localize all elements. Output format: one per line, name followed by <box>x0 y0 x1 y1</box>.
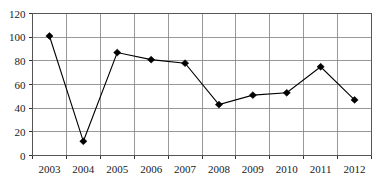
y-axis-tick-label: 0 <box>20 150 26 162</box>
y-axis-tick-label: 120 <box>9 8 26 20</box>
x-axis-tick-label: 2007 <box>174 163 197 175</box>
x-axis-tick-label: 2004 <box>72 163 95 175</box>
chart-background <box>0 0 380 187</box>
y-axis-tick-label: 40 <box>15 102 27 114</box>
line-chart: 020406080100120 200320042005200620072008… <box>0 0 380 187</box>
y-axis-tick-label: 60 <box>15 79 27 91</box>
x-axis-tick-label: 2009 <box>242 163 265 175</box>
x-axis-tick-label: 2006 <box>140 163 163 175</box>
x-axis-tick-label: 2012 <box>344 163 366 175</box>
y-axis-tick-label: 80 <box>15 55 27 67</box>
y-axis-tick-label: 100 <box>9 31 26 43</box>
x-axis-tick-label: 2008 <box>208 163 231 175</box>
x-axis-tick-label: 2005 <box>106 163 129 175</box>
x-axis-tick-label: 2011 <box>310 163 332 175</box>
x-axis-tick-label: 2010 <box>276 163 299 175</box>
x-axis-tick-label: 2003 <box>38 163 61 175</box>
chart-canvas: 020406080100120 200320042005200620072008… <box>0 0 380 187</box>
y-axis-tick-label: 20 <box>15 126 27 138</box>
